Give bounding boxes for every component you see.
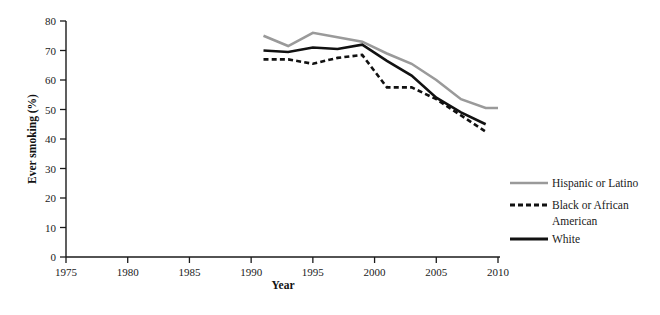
y-axis-tick-labels: 01020304050607080 bbox=[45, 15, 57, 263]
y-axis-title: Ever smoking (%) bbox=[26, 94, 39, 184]
y-tick-label: 20 bbox=[45, 192, 57, 204]
y-tick-label: 70 bbox=[45, 45, 57, 57]
legend-label: White bbox=[552, 233, 580, 245]
y-axis-ticks bbox=[60, 21, 66, 257]
legend-label: Black or African bbox=[552, 199, 629, 211]
x-tick-label: 1985 bbox=[178, 266, 201, 278]
y-tick-label: 30 bbox=[45, 163, 57, 175]
legend-label: Hispanic or Latino bbox=[552, 177, 638, 190]
series-line bbox=[263, 33, 498, 108]
y-tick-label: 0 bbox=[51, 251, 57, 263]
x-tick-label: 1995 bbox=[302, 266, 325, 278]
legend-label-cont: American bbox=[552, 215, 598, 227]
x-axis-tick-labels: 19751980198519901995200020052010 bbox=[55, 266, 510, 278]
chart-legend: Hispanic or LatinoBlack or AfricanAmeric… bbox=[510, 177, 638, 245]
y-tick-label: 10 bbox=[45, 222, 57, 234]
x-tick-label: 2000 bbox=[364, 266, 387, 278]
x-tick-label: 1980 bbox=[117, 266, 140, 278]
x-tick-label: 1990 bbox=[240, 266, 263, 278]
data-series-group bbox=[263, 33, 498, 132]
y-tick-label: 80 bbox=[45, 15, 57, 27]
y-tick-label: 50 bbox=[45, 104, 57, 116]
axes-group bbox=[66, 21, 500, 257]
line-chart: 01020304050607080 1975198019851990199520… bbox=[0, 0, 660, 315]
series-line bbox=[263, 45, 485, 125]
x-tick-label: 1975 bbox=[55, 266, 78, 278]
x-tick-label: 2010 bbox=[487, 266, 510, 278]
x-axis-ticks bbox=[66, 257, 498, 263]
y-tick-label: 60 bbox=[45, 74, 57, 86]
chart-figure: 01020304050607080 1975198019851990199520… bbox=[0, 0, 660, 315]
x-tick-label: 2005 bbox=[425, 266, 448, 278]
x-axis-title: Year bbox=[272, 279, 295, 291]
y-tick-label: 40 bbox=[45, 133, 57, 145]
